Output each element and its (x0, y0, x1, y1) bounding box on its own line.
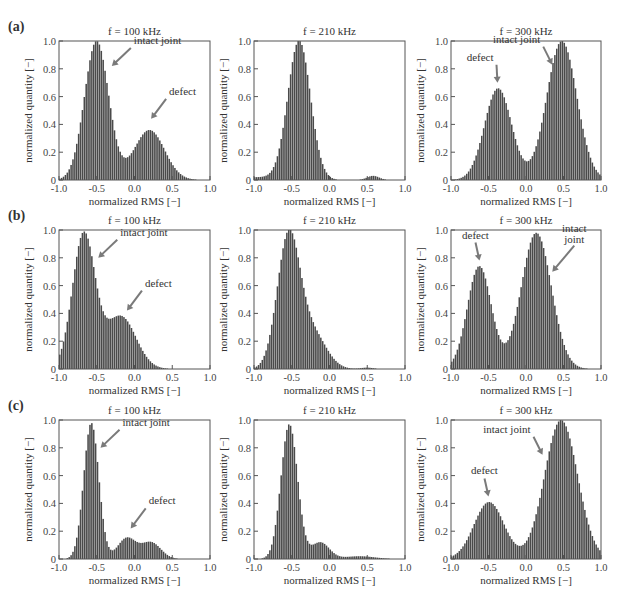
subplot-title: f = 210 kHz (303, 404, 356, 416)
figure: (a)(b)(c)f = 100 kHz00.20.40.60.81.0-1.0… (0, 0, 629, 604)
y-axis-label: normalized quantity [−] (217, 437, 229, 542)
x-tick-label: -0.5 (480, 372, 497, 383)
x-tick-label: -1.0 (246, 372, 263, 383)
annotation-label: intact joint (493, 33, 540, 45)
x-tick-label: -1.0 (443, 372, 460, 383)
x-tick-label: 0.0 (323, 562, 336, 573)
x-tick-label: 1.0 (398, 562, 411, 573)
subplot-a-3: f = 300 kHz00.20.40.60.81.0-1.0-0.50.00.… (414, 25, 608, 207)
x-tick-label: -0.5 (283, 183, 300, 194)
y-tick-label: 0.8 (238, 443, 251, 454)
subplot-title: f = 210 kHz (303, 214, 356, 226)
x-tick-label: 1.0 (398, 183, 411, 194)
x-tick-label: 1.0 (398, 372, 411, 383)
y-tick-label: 0.4 (43, 498, 57, 509)
x-tick-label: 0.0 (519, 562, 532, 573)
arrow-head-icon (484, 490, 491, 497)
annotation-label: intact joint (123, 416, 170, 428)
y-tick-label: 0.2 (435, 526, 448, 537)
x-tick-label: 1.0 (203, 562, 216, 573)
x-axis-label: normalized RMS [−] (480, 195, 572, 207)
x-tick-label: -0.5 (283, 562, 300, 573)
annotation-arrow (154, 99, 166, 115)
panel-label-a: (a) (8, 19, 25, 35)
subplot-a-2: f = 210 kHz00.20.40.60.81.0-1.0-0.50.00.… (217, 25, 412, 207)
y-tick-label: 0.8 (43, 443, 56, 454)
y-tick-label: 0.8 (435, 253, 448, 264)
histogram-bars (262, 424, 390, 559)
y-axis-label: normalized quantity [−] (217, 247, 229, 352)
annotation-arrow (476, 243, 479, 256)
y-tick-label: 1.0 (435, 225, 448, 236)
y-tick-label: 0.8 (435, 443, 448, 454)
annotation-label: intact joint (483, 423, 530, 435)
y-axis-label: normalized quantity [−] (414, 58, 426, 163)
histogram-bars (254, 230, 376, 369)
annotation-label: intact joint (134, 34, 181, 46)
annotation-arrow (534, 437, 541, 451)
subplot-title: f = 300 kHz (500, 404, 553, 416)
y-tick-label: 1.0 (238, 415, 251, 426)
annotation-arrow (555, 246, 574, 268)
panel-label-c: (c) (8, 398, 24, 414)
x-tick-label: 0.5 (166, 183, 179, 194)
x-tick-label: 0.0 (323, 183, 336, 194)
x-tick-label: 0.5 (166, 562, 179, 573)
x-tick-label: 1.0 (594, 562, 607, 573)
x-tick-label: 0.0 (323, 372, 336, 383)
y-axis-label: normalized quantity [−] (22, 58, 34, 163)
y-tick-label: 0.2 (43, 336, 56, 347)
annotation-label: joint (563, 233, 584, 245)
x-tick-label: 0.5 (557, 562, 570, 573)
subplot-b-1: f = 100 kHz00.20.40.60.81.0-1.0-0.50.00.… (22, 214, 217, 396)
y-axis-label: normalized quantity [−] (414, 247, 426, 352)
x-tick-label: -1.0 (51, 183, 68, 194)
x-tick-label: -0.5 (480, 183, 497, 194)
y-tick-label: 0.8 (238, 253, 251, 264)
y-tick-label: 0.4 (238, 308, 252, 319)
subplot-title: f = 210 kHz (303, 25, 356, 37)
x-tick-label: -1.0 (51, 372, 68, 383)
annotation-arrow (102, 240, 117, 255)
x-tick-label: 1.0 (203, 183, 216, 194)
y-tick-label: 1.0 (43, 36, 56, 47)
x-tick-label: -1.0 (246, 562, 263, 573)
y-tick-label: 1.0 (43, 225, 56, 236)
annotation-label: defect (467, 51, 494, 63)
subplot-b-2: f = 210 kHz00.20.40.60.81.0-1.0-0.50.00.… (217, 214, 412, 396)
y-tick-label: 0.6 (43, 92, 56, 103)
panel-label-b: (b) (8, 208, 25, 224)
y-tick-label: 1.0 (238, 36, 251, 47)
x-axis-label: normalized RMS [−] (89, 574, 181, 586)
arrow-head-icon (494, 77, 501, 83)
y-tick-label: 0.4 (435, 308, 449, 319)
x-tick-label: 1.0 (594, 372, 607, 383)
annotation-label: defect (471, 464, 498, 476)
annotation-arrow (485, 478, 488, 491)
x-tick-label: 0.5 (166, 372, 179, 383)
y-tick-label: 0.6 (43, 471, 56, 482)
y-tick-label: 0.2 (238, 336, 251, 347)
y-tick-label: 0.6 (435, 281, 448, 292)
y-tick-label: 0.6 (43, 281, 56, 292)
x-tick-label: -1.0 (443, 562, 460, 573)
annotation-arrow (134, 508, 146, 524)
x-tick-label: -1.0 (51, 562, 68, 573)
x-axis-label: normalized RMS [−] (480, 384, 572, 396)
x-tick-label: -0.5 (480, 562, 497, 573)
y-tick-label: 0.2 (43, 147, 56, 158)
y-axis-label: normalized quantity [−] (22, 247, 34, 352)
subplot-b-3: f = 300 kHz00.20.40.60.81.0-1.0-0.50.00.… (414, 214, 608, 396)
x-tick-label: 0.5 (361, 562, 374, 573)
x-tick-label: 0.0 (519, 372, 532, 383)
y-tick-label: 0.8 (43, 253, 56, 264)
histogram-bars (59, 231, 168, 369)
histogram-bars (59, 41, 196, 180)
y-tick-label: 0.6 (238, 281, 251, 292)
x-tick-label: 0.0 (128, 372, 141, 383)
y-tick-label: 0.4 (238, 498, 252, 509)
annotation-label: defect (145, 277, 172, 289)
x-axis-label: normalized RMS [−] (89, 384, 181, 396)
subplot-title: f = 300 kHz (500, 214, 553, 226)
y-tick-label: 1.0 (43, 415, 56, 426)
